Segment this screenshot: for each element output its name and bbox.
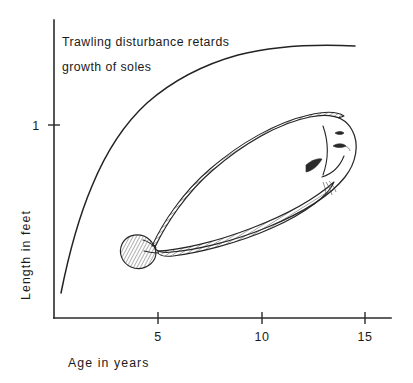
sole-fish-illustration	[120, 112, 356, 268]
fish-eye-upper-icon	[335, 132, 344, 135]
growth-curve-figure: 1 5 10 15 Age in years Length in feet Tr…	[0, 0, 413, 383]
y-axis-title: Length in feet	[19, 210, 33, 300]
annotation-line-1: Trawling disturbance retards	[62, 35, 229, 49]
y-tick-label-1: 1	[32, 119, 40, 133]
axis-titles-group: Age in years Length in feet	[19, 210, 150, 370]
fish-caudal-fin	[120, 235, 155, 269]
x-tick-label-5: 5	[154, 330, 162, 344]
chart-canvas: 1 5 10 15 Age in years Length in feet Tr…	[0, 0, 413, 383]
x-tick-label-10: 10	[254, 330, 269, 344]
annotation-group: Trawling disturbance retards growth of s…	[62, 35, 229, 74]
x-axis-title: Age in years	[68, 356, 150, 370]
annotation-line-2: growth of soles	[62, 60, 151, 74]
x-tick-label-15: 15	[357, 330, 372, 344]
